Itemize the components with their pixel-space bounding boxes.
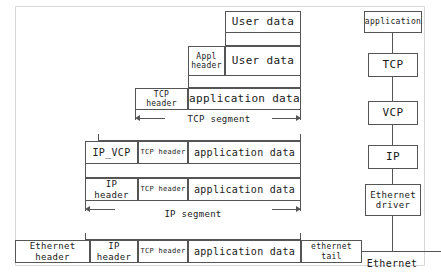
stack-node-label: application [365, 17, 421, 26]
cell-label: TCP header [140, 247, 185, 255]
stack-node-ethernet-driver[interactable]: Ethernet driver [365, 184, 421, 216]
stack-node-label: IP [386, 151, 400, 164]
cell-label: Ethernet header [16, 241, 89, 262]
tcp-segment-dim-left [137, 118, 165, 119]
stack-link-ip-driver [392, 169, 393, 184]
stack-node-ip[interactable]: IP [368, 145, 418, 169]
stack-link-vcp-ip [392, 125, 393, 145]
cell-label: application data [194, 246, 295, 258]
label-text: Ethernet [367, 258, 418, 269]
stack-link-driver-bus [392, 216, 393, 252]
diagram-frame [15, 6, 425, 266]
stack-link-application-tcp [392, 33, 393, 53]
tcp-segment-arrow-left-icon [135, 115, 140, 121]
cell-label: application data [194, 184, 295, 196]
label-text: TCP segment [188, 114, 251, 124]
cell-application-data-row5: application data [188, 178, 301, 201]
ip-segment-dim-left [87, 209, 115, 210]
cell-tcp-header-row3: TCP header [135, 88, 188, 110]
cell-tcp-header-row5: TCP header [138, 178, 188, 201]
ethernet-bus-line-left [362, 251, 392, 252]
cell-label: User data [232, 55, 294, 68]
cell-tcp-header-row6: TCP header [138, 240, 188, 263]
cell-ip-header-row5: IP header [85, 178, 138, 201]
cell-label: application data [194, 147, 295, 159]
ethernet-bus-label: Ethernet [352, 256, 432, 270]
label-text: IP segment [164, 209, 221, 219]
cell-label: application data [189, 93, 300, 106]
stack-node-label: VCP [383, 107, 404, 120]
cell-user-data-row2: User data [225, 46, 301, 76]
cell-label: User data [232, 16, 294, 29]
ip-segment-label: IP segment [140, 207, 246, 221]
stack-link-tcp-vcp [392, 77, 393, 101]
cell-appl-header: Appl header [188, 46, 225, 76]
cell-tcp-header-row4: TCP header [138, 141, 188, 164]
stack-node-application[interactable]: application [364, 11, 422, 33]
cell-user-data-row1: User data [225, 11, 301, 33]
cell-ip-header-row6: IP header [90, 240, 138, 263]
cell-application-data-row3: application data [188, 88, 301, 110]
stack-node-label-line2: driver [376, 200, 410, 210]
cell-label: TCP header [140, 148, 185, 156]
stack-node-label-line1: Ethernet [370, 190, 416, 200]
tcp-segment-arrow-right-icon [296, 115, 301, 121]
cell-label: IP_VCP [93, 147, 131, 159]
tcp-segment-label: TCP segment [167, 112, 271, 126]
cell-label: IP header [86, 179, 137, 200]
cell-label: TCP header [140, 185, 185, 193]
cell-application-data-row6: application data [188, 240, 301, 263]
ip-segment-arrow-right-icon [296, 206, 301, 212]
cell-ip-vcp: IP_VCP [85, 141, 138, 164]
appl-header-line2: header [191, 61, 222, 70]
stack-node-tcp[interactable]: TCP [368, 53, 418, 77]
stack-node-label: TCP [383, 59, 404, 72]
stack-node-vcp[interactable]: VCP [368, 101, 418, 125]
ip-segment-arrow-left-icon [85, 206, 90, 212]
appl-header-line1: Appl [196, 52, 216, 61]
cell-application-data-row4: application data [188, 141, 301, 164]
cell-label: TCP header [136, 90, 187, 108]
cell-ethernet-header: Ethernet header [15, 240, 90, 263]
cell-label: IP header [91, 241, 137, 262]
